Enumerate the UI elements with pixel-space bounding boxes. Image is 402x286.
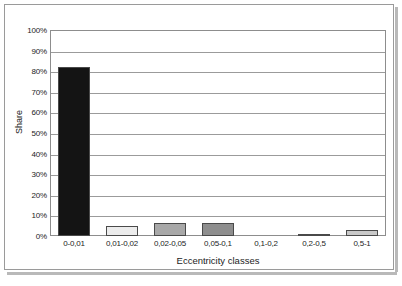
bar-slot xyxy=(242,30,290,236)
y-axis-tick-label: 20% xyxy=(13,190,47,199)
y-axis-tick-label: 0% xyxy=(13,232,47,241)
y-axis-tick-label: 80% xyxy=(13,67,47,76)
bar-slot xyxy=(50,30,98,236)
bar-slot xyxy=(146,30,194,236)
bar-slot xyxy=(290,30,338,236)
bar[interactable] xyxy=(58,67,90,236)
x-axis-tick-label: 0,1-0,2 xyxy=(242,239,290,248)
y-axis-tick-label: 60% xyxy=(13,108,47,117)
bar-slot xyxy=(194,30,242,236)
x-axis-tick-label: 0-0,01 xyxy=(50,239,98,248)
x-axis-title: Eccentricity classes xyxy=(50,255,386,266)
y-axis-tick-labels: 0%10%20%30%40%50%60%70%80%90%100% xyxy=(13,30,47,236)
bar-slot xyxy=(98,30,146,236)
y-axis-tick-label: 100% xyxy=(13,26,47,35)
bar[interactable] xyxy=(106,226,138,236)
y-axis-tick-label: 10% xyxy=(13,211,47,220)
y-axis-tick-label: 30% xyxy=(13,170,47,179)
figure-frame: Share 0%10%20%30%40%50%60%70%80%90%100% … xyxy=(4,4,394,270)
figure-shadow-right xyxy=(395,7,398,272)
bar[interactable] xyxy=(346,230,378,236)
bar-slot xyxy=(338,30,386,236)
figure-shadow-bottom xyxy=(7,272,397,275)
y-axis-tick-label: 90% xyxy=(13,46,47,55)
x-axis-tick-label: 0,2-0,5 xyxy=(290,239,338,248)
bar[interactable] xyxy=(202,223,234,236)
x-axis-tick-label: 0,01-0,02 xyxy=(98,239,146,248)
y-axis-tick-label: 70% xyxy=(13,87,47,96)
bar[interactable] xyxy=(298,234,330,236)
x-axis-tick-labels: 0-0,010,01-0,020,02-0,050,05-0,10,1-0,20… xyxy=(50,239,386,248)
x-axis-tick-label: 0,02-0,05 xyxy=(146,239,194,248)
y-axis-tick-label: 40% xyxy=(13,149,47,158)
bar-series xyxy=(50,30,386,236)
bar[interactable] xyxy=(154,223,186,236)
y-axis-tick-label: 50% xyxy=(13,129,47,138)
x-axis-tick-label: 0,5-1 xyxy=(338,239,386,248)
x-axis-tick-label: 0,05-0,1 xyxy=(194,239,242,248)
